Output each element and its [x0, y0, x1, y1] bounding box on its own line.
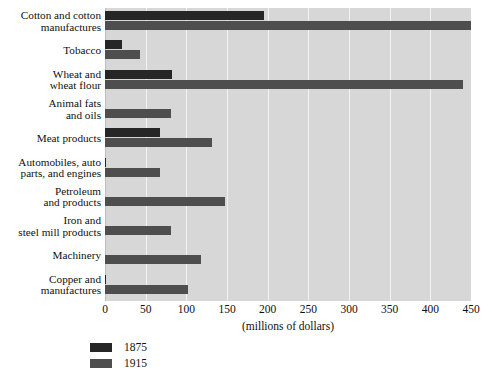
category-label-line: Cotton and cotton: [0, 10, 101, 22]
x-tick-label: 400: [422, 303, 439, 315]
legend-item: 1875: [90, 340, 147, 354]
bar-1915: [105, 138, 212, 147]
category-label-line: and products: [0, 197, 101, 209]
bar-1875: [105, 40, 122, 49]
category-label-line: Meat products: [0, 133, 101, 145]
x-tick-label: 250: [300, 303, 317, 315]
bar-1915: [105, 285, 188, 294]
legend-label: 1875: [124, 342, 147, 353]
x-tick-label: 350: [381, 303, 398, 315]
bar-row: [105, 96, 471, 125]
bar-1875: [105, 11, 264, 20]
bar-1875: [105, 128, 160, 137]
bar-1915: [105, 168, 160, 177]
bar-1915: [105, 80, 463, 89]
x-tick-label: 50: [140, 303, 152, 315]
bar-1915: [105, 21, 471, 30]
category-label: Copper andmanufactures: [0, 274, 101, 297]
category-label-line: steel mill products: [0, 227, 101, 239]
category-label: Cotton and cottonmanufactures: [0, 10, 101, 33]
category-label-line: parts, and engines: [0, 168, 101, 180]
category-label-line: Animal fats: [0, 98, 101, 110]
x-tick-label: 200: [259, 303, 276, 315]
category-label: Meat products: [0, 133, 101, 145]
bar-1915: [105, 226, 171, 235]
chart-legend: 18751915: [90, 340, 147, 372]
bar-row: [105, 272, 471, 301]
category-axis-labels: Cotton and cottonmanufacturesTobaccoWhea…: [0, 8, 101, 301]
legend-swatch: [90, 343, 112, 352]
category-label-line: Machinery: [0, 250, 101, 262]
category-label: Iron andsteel mill products: [0, 215, 101, 238]
bar-row: [105, 213, 471, 242]
category-label: Wheat andwheat flour: [0, 69, 101, 92]
category-label-line: and oils: [0, 110, 101, 122]
bar-1875: [105, 70, 172, 79]
bar-row: [105, 184, 471, 213]
bar-row: [105, 155, 471, 184]
category-label-line: Iron and: [0, 215, 101, 227]
category-label-line: manufactures: [0, 285, 101, 297]
category-label: Tobacco: [0, 45, 101, 57]
category-label-line: wheat flour: [0, 80, 101, 92]
x-tick-label: 300: [340, 303, 357, 315]
plot-area: [105, 8, 471, 301]
x-axis-tick-labels: 050100150200250300350400450: [0, 303, 492, 321]
bar-row: [105, 37, 471, 66]
bar-1915: [105, 109, 171, 118]
legend-swatch: [90, 359, 112, 368]
legend-label: 1915: [124, 358, 147, 369]
bar-row: [105, 242, 471, 271]
x-tick-label: 150: [218, 303, 235, 315]
bar-chart-figure: Cotton and cottonmanufacturesTobaccoWhea…: [0, 0, 492, 385]
category-label-line: Tobacco: [0, 45, 101, 57]
x-tick-label: 0: [102, 303, 108, 315]
category-label: Machinery: [0, 250, 101, 262]
bar-1875: [105, 158, 106, 167]
category-label: Animal fatsand oils: [0, 98, 101, 121]
bar-row: [105, 8, 471, 37]
bar-row: [105, 67, 471, 96]
bar-1915: [105, 197, 225, 206]
category-label-line: manufactures: [0, 22, 101, 34]
bar-1915: [105, 50, 140, 59]
x-axis-caption: (millions of dollars): [105, 320, 471, 332]
bar-1875: [105, 275, 106, 284]
bar-row: [105, 125, 471, 154]
x-tick-label: 100: [178, 303, 195, 315]
category-label: Automobiles, autoparts, and engines: [0, 157, 101, 180]
bar-1915: [105, 255, 201, 264]
category-label: Petroleumand products: [0, 186, 101, 209]
bar-rows: [105, 8, 471, 301]
x-tick-label: 450: [462, 303, 479, 315]
legend-item: 1915: [90, 356, 147, 370]
